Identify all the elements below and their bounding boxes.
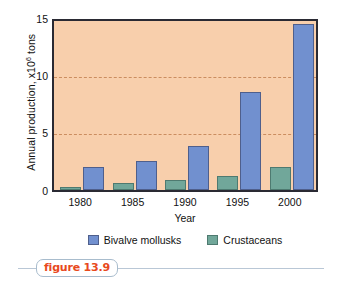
bar-crustaceans-1985 xyxy=(113,183,134,190)
bar-group xyxy=(264,21,316,190)
bar-crustaceans-1990 xyxy=(165,180,186,190)
y-tick-label: 15 xyxy=(22,14,48,25)
legend-label: Crustaceans xyxy=(223,234,282,246)
legend-swatch-icon xyxy=(207,235,218,245)
y-tick-label: 0 xyxy=(22,186,48,197)
plot-area xyxy=(52,19,318,192)
bar-group xyxy=(159,21,211,190)
x-tick-label: 2000 xyxy=(278,196,301,208)
bar-bivalve-mollusks-1995 xyxy=(240,92,261,190)
figure-container: Annual production, x106 tons 15 10 5 0 1… xyxy=(0,0,338,288)
x-tick-label: 1995 xyxy=(226,196,249,208)
bar-group xyxy=(106,21,158,190)
figure-caption: figure 13.9 xyxy=(36,259,118,277)
x-tick-label: 1990 xyxy=(173,196,196,208)
x-tick-label: 1980 xyxy=(69,196,92,208)
bar-crustaceans-1995 xyxy=(217,176,238,190)
y-tick-label: 10 xyxy=(22,71,48,82)
y-axis-ticks: 15 10 5 0 xyxy=(22,0,48,288)
bar-bivalve-mollusks-1990 xyxy=(188,146,209,190)
chart-legend: Bivalve mollusks Crustaceans xyxy=(52,233,318,247)
bar-crustaceans-2000 xyxy=(270,167,291,190)
y-tick-label: 5 xyxy=(22,128,48,139)
plot-inner xyxy=(54,21,316,190)
bar-crustaceans-1980 xyxy=(60,187,81,190)
legend-swatch-icon xyxy=(88,235,99,245)
bar-group xyxy=(54,21,106,190)
x-axis-ticks: 19801985199019952000 xyxy=(52,196,318,210)
x-axis-title: Year xyxy=(52,212,318,224)
legend-label: Bivalve mollusks xyxy=(104,234,182,246)
legend-item-crustaceans: Crustaceans xyxy=(207,234,282,246)
legend-item-bivalve-mollusks: Bivalve mollusks xyxy=(88,234,182,246)
x-tick-label: 1985 xyxy=(121,196,144,208)
bar-group xyxy=(211,21,263,190)
bar-bivalve-mollusks-1985 xyxy=(136,161,157,190)
bar-bivalve-mollusks-2000 xyxy=(293,24,314,190)
bar-bivalve-mollusks-1980 xyxy=(83,167,104,190)
